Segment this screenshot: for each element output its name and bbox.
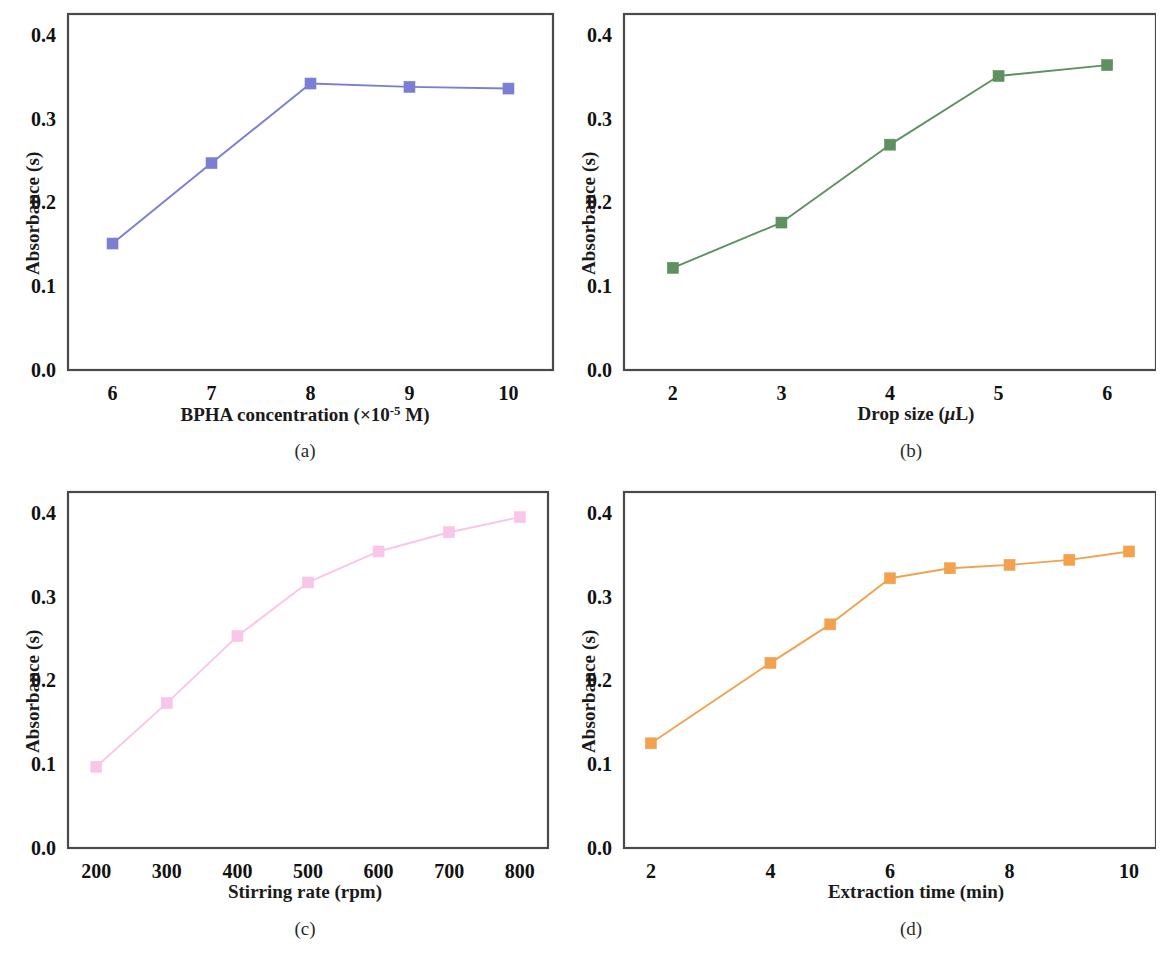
y-tick-label: 0.3 xyxy=(587,586,612,608)
panel-caption-b: (b) xyxy=(666,440,1156,462)
x-tick-label: 3 xyxy=(776,382,786,400)
x-tick-label: 10 xyxy=(498,382,518,400)
x-tick-label: 300 xyxy=(152,860,182,878)
data-point-marker xyxy=(885,139,896,150)
y-tick-label: 0.3 xyxy=(31,108,56,130)
plot-frame-a xyxy=(68,14,553,370)
data-point-marker xyxy=(305,78,316,89)
y-tick-label: 0.0 xyxy=(31,837,56,859)
data-series-line-a xyxy=(113,84,509,244)
x-tick-label: 4 xyxy=(885,382,895,400)
y-tick-label: 0.1 xyxy=(31,275,56,297)
data-point-marker xyxy=(825,619,836,630)
data-point-marker xyxy=(161,698,172,709)
data-point-marker xyxy=(373,546,384,557)
data-point-marker xyxy=(1124,546,1135,557)
panel-d: 0.00.10.20.30.4246810 Absorbance (s) Ext… xyxy=(556,478,1112,956)
x-axis-label-a: BPHA concentration (×10-5 M) xyxy=(55,403,555,426)
x-axis-label-a-prefix: BPHA concentration (×10 xyxy=(180,404,389,425)
panel-caption-d: (d) xyxy=(666,918,1156,940)
data-series-line-c xyxy=(96,517,520,767)
panel-caption-c: (c) xyxy=(60,918,550,940)
chart-b: 0.00.10.20.30.423456 xyxy=(556,0,1156,400)
x-tick-label: 10 xyxy=(1119,860,1139,878)
y-tick-label: 0.4 xyxy=(587,502,612,524)
y-tick-label: 0.3 xyxy=(31,586,56,608)
chart-d: 0.00.10.20.30.4246810 xyxy=(556,478,1156,878)
x-tick-label: 6 xyxy=(108,382,118,400)
x-axis-label-a-sup: -5 xyxy=(390,403,401,418)
data-point-marker xyxy=(776,217,787,228)
plot-area-d: 0.00.10.20.30.4246810 xyxy=(556,478,1112,878)
plot-frame-d xyxy=(624,492,1156,848)
x-axis-label-b: Drop size (μL) xyxy=(666,403,1160,425)
y-axis-label-c: Absorbance (s) xyxy=(22,630,44,753)
x-tick-label: 6 xyxy=(1102,382,1112,400)
panel-c: 0.00.10.20.30.4200300400500600700800 Abs… xyxy=(0,478,556,956)
data-point-marker xyxy=(514,512,525,523)
y-tick-label: 0.1 xyxy=(587,275,612,297)
data-point-marker xyxy=(765,657,776,668)
x-axis-label-c: Stirring rate (rpm) xyxy=(55,881,555,903)
panel-a: 0.00.10.20.30.4678910 Absorbance (s) BPH… xyxy=(0,0,556,478)
x-axis-label-b-suffix: L) xyxy=(955,403,974,424)
y-axis-label-b: Absorbance (s) xyxy=(578,152,600,275)
x-tick-label: 8 xyxy=(1005,860,1015,878)
y-tick-label: 0.1 xyxy=(587,753,612,775)
data-point-marker xyxy=(91,761,102,772)
x-tick-label: 2 xyxy=(646,860,656,878)
data-point-marker xyxy=(232,631,243,642)
data-series-line-b xyxy=(673,65,1107,268)
x-axis-label-a-suffix: M) xyxy=(401,404,430,425)
panel-caption-a: (a) xyxy=(60,440,550,462)
x-tick-label: 600 xyxy=(364,860,394,878)
data-point-marker xyxy=(1004,559,1015,570)
x-tick-label: 8 xyxy=(306,382,316,400)
data-point-marker xyxy=(944,563,955,574)
panel-b: 0.00.10.20.30.423456 Absorbance (s) Drop… xyxy=(556,0,1112,478)
x-tick-label: 4 xyxy=(765,860,775,878)
y-tick-label: 0.0 xyxy=(587,837,612,859)
x-tick-label: 7 xyxy=(207,382,217,400)
chart-c: 0.00.10.20.30.4200300400500600700800 xyxy=(0,478,556,878)
x-tick-label: 800 xyxy=(505,860,535,878)
x-tick-label: 200 xyxy=(81,860,111,878)
data-point-marker xyxy=(107,238,118,249)
x-tick-label: 700 xyxy=(434,860,464,878)
data-point-marker xyxy=(667,262,678,273)
data-point-marker xyxy=(404,81,415,92)
y-tick-label: 0.3 xyxy=(587,108,612,130)
y-tick-label: 0.4 xyxy=(31,502,56,524)
y-tick-label: 0.4 xyxy=(587,24,612,46)
plot-frame-c xyxy=(68,492,548,848)
data-point-marker xyxy=(503,83,514,94)
x-tick-label: 5 xyxy=(994,382,1004,400)
chart-a: 0.00.10.20.30.4678910 xyxy=(0,0,556,400)
y-axis-label-a: Absorbance (s) xyxy=(22,152,44,275)
x-axis-label-b-prefix: Drop size ( xyxy=(858,403,945,424)
data-point-marker xyxy=(444,527,455,538)
x-tick-label: 9 xyxy=(404,382,414,400)
plot-area-c: 0.00.10.20.30.4200300400500600700800 xyxy=(0,478,556,878)
x-tick-label: 2 xyxy=(668,382,678,400)
x-axis-label-b-mu: μ xyxy=(945,403,956,424)
plot-area-b: 0.00.10.20.30.423456 xyxy=(556,0,1112,400)
data-point-marker xyxy=(993,70,1004,81)
x-tick-label: 400 xyxy=(222,860,252,878)
plot-area-a: 0.00.10.20.30.4678910 xyxy=(0,0,556,400)
data-point-marker xyxy=(1102,60,1113,71)
y-tick-label: 0.4 xyxy=(31,24,56,46)
x-tick-label: 6 xyxy=(885,860,895,878)
y-tick-label: 0.0 xyxy=(31,359,56,381)
data-point-marker xyxy=(206,158,217,169)
x-tick-label: 500 xyxy=(293,860,323,878)
data-point-marker xyxy=(645,738,656,749)
data-point-marker xyxy=(303,577,314,588)
y-axis-label-d: Absorbance (s) xyxy=(578,630,600,753)
y-tick-label: 0.1 xyxy=(31,753,56,775)
x-axis-label-d: Extraction time (min) xyxy=(666,881,1160,903)
data-point-marker xyxy=(1064,554,1075,565)
y-tick-label: 0.0 xyxy=(587,359,612,381)
data-point-marker xyxy=(885,573,896,584)
